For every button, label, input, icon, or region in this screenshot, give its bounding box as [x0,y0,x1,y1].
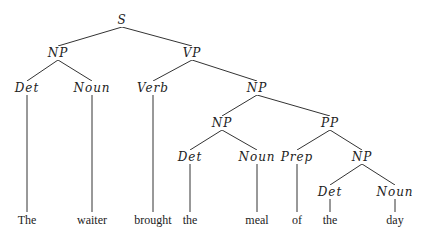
node-np: NP [47,46,70,60]
tree-edge [222,95,257,116]
node-verb: Verb [136,81,170,95]
node-vp: VP [182,46,203,60]
tree-edge [330,130,362,150]
node-s: S [116,13,127,27]
tree-edge [122,27,192,46]
leaf-word: brought [134,213,171,227]
tree-edge [297,130,330,150]
node-np: NP [351,150,374,164]
leaf-word: meal [245,213,268,227]
node-prep: Prep [280,150,315,164]
tree-edge [257,95,330,116]
node-det: Det [317,185,344,199]
node-np: NP [246,81,269,95]
leaf-word: the [183,213,198,227]
tree-edge [58,60,92,81]
tree-edge [58,27,122,46]
tree-edge [192,60,257,81]
node-pp: PP [320,116,340,130]
leaf-word: the [323,213,338,227]
node-noun: Noun [237,150,276,164]
tree-edge [190,130,222,150]
leaf-word: The [18,213,37,227]
tree-edge [27,60,58,81]
node-noun: Noun [72,81,111,95]
node-det: Det [177,150,204,164]
node-noun: Noun [375,185,414,199]
tree-edge [362,164,395,185]
tree-edge [330,164,362,185]
node-det: Det [14,81,41,95]
node-np: NP [211,116,234,130]
tree-edge [222,130,257,150]
leaf-word: of [292,213,302,227]
leaf-word: day [386,213,403,227]
leaf-word: waiter [77,213,107,227]
tree-edge [153,60,192,81]
